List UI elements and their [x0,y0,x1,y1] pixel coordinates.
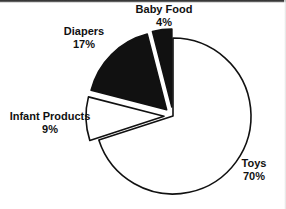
pie-label-toys-name: Toys [231,157,277,170]
pie-chart: Baby Food 4% Diapers 17% Infant Products… [0,0,286,209]
scan-artifact-right-edge [284,0,286,209]
pie-label-baby-food-value: 4% [122,16,206,29]
pie-label-infant-products-value: 9% [4,123,96,136]
pie-label-diapers-value: 17% [44,38,124,51]
pie-label-diapers-name: Diapers [44,25,124,38]
pie-slices [86,29,251,194]
scan-artifact-top-edge [0,0,286,3]
pie-label-diapers: Diapers 17% [44,25,124,50]
pie-label-toys-value: 70% [231,170,277,183]
pie-label-baby-food-name: Baby Food [122,3,206,16]
pie-label-baby-food: Baby Food 4% [122,3,206,28]
pie-label-infant-products-name: Infant Products [4,110,96,123]
pie-label-infant-products: Infant Products 9% [4,110,96,135]
pie-label-toys: Toys 70% [231,157,277,182]
